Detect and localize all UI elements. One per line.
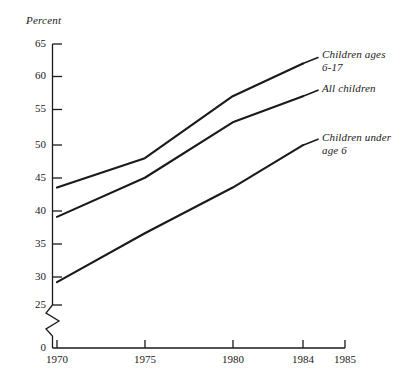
x-tick-label-1975: 1975 <box>134 354 156 365</box>
y-tick-label-35: 35 <box>20 238 46 249</box>
y-tick-label-50: 50 <box>20 139 46 150</box>
series-line-children-under-age-6 <box>57 145 303 282</box>
y-tick-label-45: 45 <box>20 172 46 183</box>
leader-line-children-ages-6-17 <box>303 58 318 64</box>
series-line-children-ages-6-17 <box>57 64 303 188</box>
y-tick-label-60: 60 <box>20 70 46 81</box>
line-chart: Percent 65 60 <box>0 0 414 380</box>
series-label-all-children: All children <box>322 82 376 95</box>
x-tick-label-1970: 1970 <box>46 354 68 365</box>
y-axis-break-zigzag <box>46 305 59 336</box>
y-tick-label-40: 40 <box>20 205 46 216</box>
y-tick-label-65: 65 <box>20 38 46 49</box>
x-tick-label-1984: 1984 <box>292 354 314 365</box>
series-line-all-children <box>57 96 303 217</box>
y-tick-label-0: 0 <box>20 342 46 353</box>
leader-line-all-children <box>303 90 318 96</box>
y-tick-label-25: 25 <box>20 299 46 310</box>
y-tick-label-30: 30 <box>20 271 46 282</box>
leader-line-children-under-age-6 <box>303 139 318 145</box>
y-tick-label-55: 55 <box>20 103 46 114</box>
series-label-children-ages-6-17: Children ages 6-17 <box>322 48 386 73</box>
series-label-children-under-age-6: Children under age 6 <box>322 131 391 156</box>
x-tick-label-1980: 1980 <box>222 354 244 365</box>
x-tick-label-1985: 1985 <box>334 354 356 365</box>
